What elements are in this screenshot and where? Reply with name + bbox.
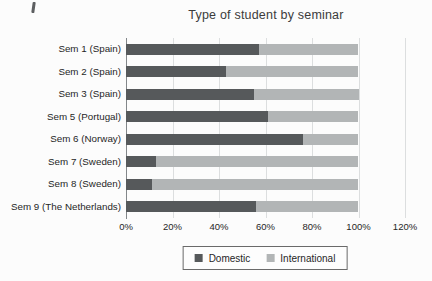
bar-row: Sem 5 (Portugal) bbox=[0, 106, 432, 129]
bar-row: Sem 3 (Spain) bbox=[0, 83, 432, 106]
category-label: Sem 5 (Portugal) bbox=[0, 106, 126, 129]
stacked-bar bbox=[126, 179, 359, 190]
bar-row: Sem 8 (Sweden) bbox=[0, 173, 432, 196]
segment-domestic bbox=[126, 134, 303, 145]
x-axis-tick-labels: 0%20%40%60%80%100%120% bbox=[0, 221, 432, 233]
legend: DomesticInternational bbox=[183, 246, 348, 270]
x-tick-label-100: 100% bbox=[346, 221, 370, 232]
category-label: Sem 7 (Sweden) bbox=[0, 151, 126, 174]
segment-domestic bbox=[126, 66, 226, 77]
segment-domestic bbox=[126, 201, 256, 212]
x-tick-label-120: 120% bbox=[393, 221, 417, 232]
stacked-bar bbox=[126, 156, 359, 167]
stacked-bar bbox=[126, 66, 359, 77]
x-tick-label-0: 0% bbox=[119, 221, 133, 232]
bar-track bbox=[126, 173, 359, 196]
bar-track bbox=[126, 61, 359, 84]
bar-row: Sem 6 (Norway) bbox=[0, 128, 432, 151]
segment-international bbox=[226, 66, 359, 77]
legend-swatch-icon bbox=[195, 254, 203, 262]
x-tick-label-40: 40% bbox=[209, 221, 228, 232]
segment-international bbox=[254, 89, 359, 100]
stacked-bar bbox=[126, 201, 359, 212]
segment-international bbox=[256, 201, 358, 212]
category-label: Sem 3 (Spain) bbox=[0, 83, 126, 106]
scan-artifact-mark bbox=[31, 2, 36, 13]
stacked-bar bbox=[126, 111, 359, 122]
x-tick-label-80: 80% bbox=[302, 221, 321, 232]
bar-track bbox=[126, 128, 359, 151]
segment-international bbox=[268, 111, 359, 122]
bar-track bbox=[126, 83, 359, 106]
stacked-bar bbox=[126, 134, 359, 145]
segment-domestic bbox=[126, 111, 268, 122]
bar-row: Sem 7 (Sweden) bbox=[0, 151, 432, 174]
legend-label: Domestic bbox=[209, 253, 251, 264]
segment-domestic bbox=[126, 44, 259, 55]
bar-track bbox=[126, 38, 359, 61]
category-label: Sem 8 (Sweden) bbox=[0, 173, 126, 196]
stacked-bar bbox=[126, 44, 359, 55]
segment-domestic bbox=[126, 179, 152, 190]
bar-track bbox=[126, 106, 359, 129]
segment-international bbox=[156, 156, 358, 167]
bar-row: Sem 9 (The Netherlands) bbox=[0, 196, 432, 219]
legend-item-international: International bbox=[266, 253, 335, 264]
scanned-chart-page: Type of student by seminar Sem 1 (Spain)… bbox=[0, 0, 432, 281]
segment-domestic bbox=[126, 156, 156, 167]
category-label: Sem 2 (Spain) bbox=[0, 61, 126, 84]
segment-international bbox=[259, 44, 359, 55]
bar-track bbox=[126, 151, 359, 174]
category-label: Sem 1 (Spain) bbox=[0, 38, 126, 61]
legend-item-domestic: Domestic bbox=[195, 253, 251, 264]
chart-title: Type of student by seminar bbox=[126, 8, 406, 22]
x-tick-label-60: 60% bbox=[256, 221, 275, 232]
x-tick-label-20: 20% bbox=[163, 221, 182, 232]
bar-rows: Sem 1 (Spain)Sem 2 (Spain)Sem 3 (Spain)S… bbox=[0, 38, 432, 218]
segment-international bbox=[152, 179, 359, 190]
category-label: Sem 6 (Norway) bbox=[0, 128, 126, 151]
bar-track bbox=[126, 196, 359, 219]
stacked-bar bbox=[126, 89, 359, 100]
segment-international bbox=[303, 134, 359, 145]
bar-row: Sem 1 (Spain) bbox=[0, 38, 432, 61]
segment-domestic bbox=[126, 89, 254, 100]
bar-row: Sem 2 (Spain) bbox=[0, 61, 432, 84]
legend-swatch-icon bbox=[266, 254, 274, 262]
legend-label: International bbox=[280, 253, 335, 264]
category-label: Sem 9 (The Netherlands) bbox=[0, 196, 126, 219]
